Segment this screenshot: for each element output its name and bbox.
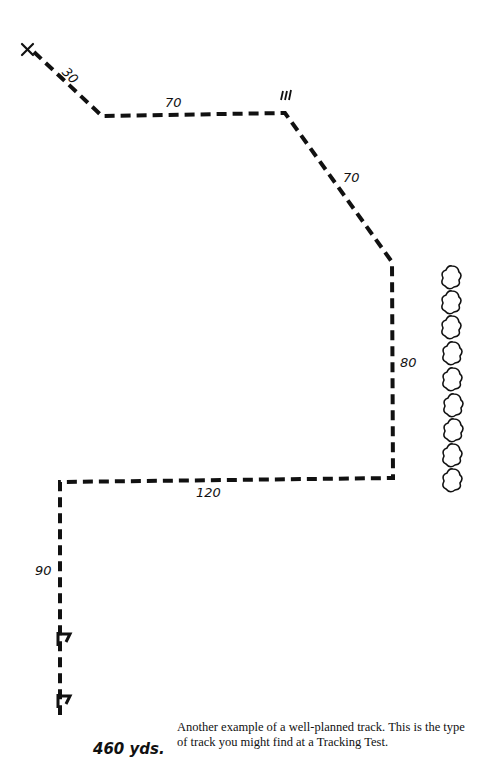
- tree-icon: [443, 444, 462, 467]
- leg-label-2: 70: [165, 95, 182, 110]
- tree-icon: [444, 394, 463, 417]
- tree-icon: [442, 266, 461, 289]
- tree-icon: [443, 368, 462, 391]
- corner-mark-icon: [281, 90, 291, 100]
- track-path: [34, 52, 393, 715]
- track-diagram: [0, 0, 501, 782]
- tree-icon: [442, 316, 461, 339]
- tree-icon: [442, 291, 461, 314]
- leg-label-5: 120: [196, 485, 221, 500]
- leg-label-4: 80: [400, 355, 417, 370]
- leg-label-3: 70: [343, 170, 360, 185]
- tree-line: [442, 266, 463, 492]
- tree-icon: [444, 419, 463, 442]
- total-length: 460 yds.: [93, 740, 165, 758]
- start-x-marker: [22, 44, 33, 55]
- leg-label-6: 90: [35, 563, 52, 578]
- tree-icon: [443, 342, 462, 365]
- tree-icon: [443, 469, 462, 492]
- caption: Another example of a well-planned track.…: [177, 720, 477, 750]
